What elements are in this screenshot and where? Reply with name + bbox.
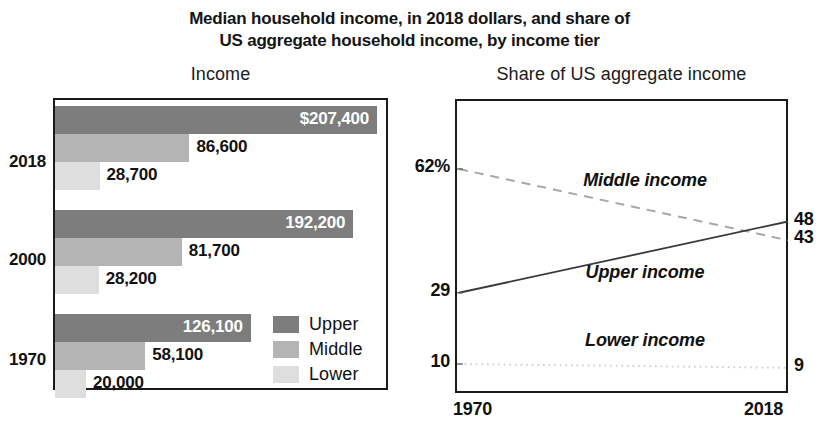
legend-label-middle: Middle <box>309 339 363 360</box>
bar-value-1970-middle: 58,100 <box>152 345 203 365</box>
bar-value-2018-upper: $207,400 <box>300 109 369 129</box>
income-panel-subtitle: Income <box>53 64 388 85</box>
bar-2018-lower <box>55 162 100 190</box>
legend-item-middle[interactable]: Middle <box>273 337 385 362</box>
series-label-middle-income: Middle income <box>520 170 770 191</box>
bar-row-2000-middle: 81,700 <box>55 238 386 266</box>
series-label-lower-income: Lower income <box>520 330 770 351</box>
bar-value-2000-middle: 81,700 <box>189 241 240 261</box>
legend-item-upper[interactable]: Upper <box>273 312 385 337</box>
legend-label-lower: Lower <box>309 364 359 385</box>
bar-row-2018-middle: 86,600 <box>55 134 386 162</box>
y-axis-tick-left-10: 10 <box>402 351 450 372</box>
x-axis-tick-2018: 2018 <box>744 399 783 420</box>
year-label-2018: 2018 <box>0 152 46 172</box>
y-axis-tick-right-43: 43 <box>794 227 813 248</box>
legend-swatch-lower <box>273 366 299 383</box>
bar-chart-legend: UpperMiddleLower <box>273 312 385 387</box>
bar-1970-lower <box>55 370 86 398</box>
bar-value-1970-lower: 20,000 <box>93 373 144 393</box>
share-panel-subtitle: Share of US aggregate income <box>455 64 788 85</box>
x-axis-tick-1970: 1970 <box>453 399 492 420</box>
legend-swatch-upper <box>273 316 299 333</box>
page-title: Median household income, in 2018 dollars… <box>0 8 819 52</box>
series-label-upper-income: Upper income <box>520 262 770 283</box>
bar-row-2000-lower: 28,200 <box>55 266 386 294</box>
bar-row-2018-lower: 28,700 <box>55 162 386 190</box>
bar-2000-middle <box>55 238 182 266</box>
y-axis-tick-left-29: 29 <box>402 280 450 301</box>
income-bar-chart: $207,40086,60028,700192,20081,70028,2001… <box>53 98 388 390</box>
year-label-1970: 1970 <box>0 350 46 370</box>
bar-row-2018-upper: $207,400 <box>55 106 386 134</box>
legend-label-upper: Upper <box>309 314 359 335</box>
y-axis-tick-right-9: 9 <box>794 355 804 376</box>
bar-value-1970-upper: 126,100 <box>183 317 243 337</box>
page-title-line-2: US aggregate household income, by income… <box>0 30 819 52</box>
bar-row-2000-upper: 192,200 <box>55 210 386 238</box>
page-title-line-1: Median household income, in 2018 dollars… <box>0 8 819 30</box>
bar-2018-middle <box>55 134 189 162</box>
bar-value-2018-lower: 28,700 <box>107 165 158 185</box>
legend-swatch-middle <box>273 341 299 358</box>
bar-2000-lower <box>55 266 99 294</box>
year-label-2000: 2000 <box>0 250 46 270</box>
legend-item-lower[interactable]: Lower <box>273 362 385 387</box>
line-series-lower-income <box>459 364 788 368</box>
bar-1970-middle <box>55 342 145 370</box>
bar-value-2018-middle: 86,600 <box>196 137 247 157</box>
bar-value-2000-upper: 192,200 <box>285 213 345 233</box>
y-axis-tick-left-62: 62% <box>402 156 450 177</box>
bar-value-2000-lower: 28,200 <box>106 269 157 289</box>
